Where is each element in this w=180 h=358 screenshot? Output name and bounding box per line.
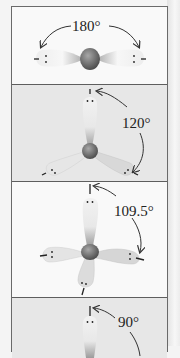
panel-tetrahedral: 109.5° (12, 181, 167, 297)
octahedral-diagram: 90° (12, 298, 167, 358)
angle-arc-90 (94, 308, 115, 318)
lobe-front (78, 256, 94, 287)
lobe-right (96, 249, 139, 264)
angle-arc-180 (41, 26, 71, 47)
angle-arc-109.5 (94, 186, 116, 196)
page-curl-shadow (167, 0, 180, 346)
lobe-up (83, 97, 97, 147)
lobe-left (36, 49, 84, 66)
lobe-up (83, 316, 98, 358)
panel-trigonal-planar: 120° (12, 84, 167, 181)
angle-label: 90° (118, 314, 139, 330)
angle-label: 120° (122, 115, 151, 131)
lobe-lower-right (92, 151, 134, 175)
angle-arc-120 (97, 91, 127, 107)
tetrahedral-diagram: 109.5° (12, 182, 167, 297)
panel-linear: 180° (12, 7, 167, 84)
trigonal-planar-diagram: 120° (12, 85, 167, 181)
lobe-lower-left (46, 151, 88, 175)
lobe-right (96, 49, 144, 66)
lobe-up (83, 198, 98, 246)
angle-label: 109.5° (114, 203, 154, 219)
figure-frame: 180° 120° (11, 6, 168, 352)
lobe-left (43, 247, 84, 262)
linear-diagram: 180° (12, 7, 167, 84)
angle-label: 180° (72, 18, 101, 34)
nucleus (82, 143, 98, 159)
nucleus (80, 48, 100, 70)
nucleus (81, 244, 99, 260)
panel-octahedral: 90° (12, 297, 167, 358)
